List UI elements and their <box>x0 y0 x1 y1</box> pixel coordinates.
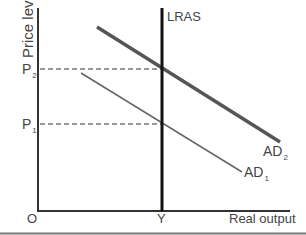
y-axis-label: Price level <box>19 0 36 58</box>
y-output-label: Y <box>157 211 166 226</box>
ad2-label: AD2 <box>263 143 288 162</box>
p2-label: P2 <box>22 61 37 80</box>
ad-lras-diagram: Price level LRAS P2 P1 AD2 AD1 O Y Real … <box>0 0 306 235</box>
x-axis-label: Real output <box>229 211 296 226</box>
lras-label: LRAS <box>167 9 201 24</box>
origin-label: O <box>27 211 37 226</box>
ad2-curve <box>97 27 280 142</box>
p1-label: P1 <box>22 116 37 135</box>
ad1-label: AD1 <box>244 164 269 183</box>
